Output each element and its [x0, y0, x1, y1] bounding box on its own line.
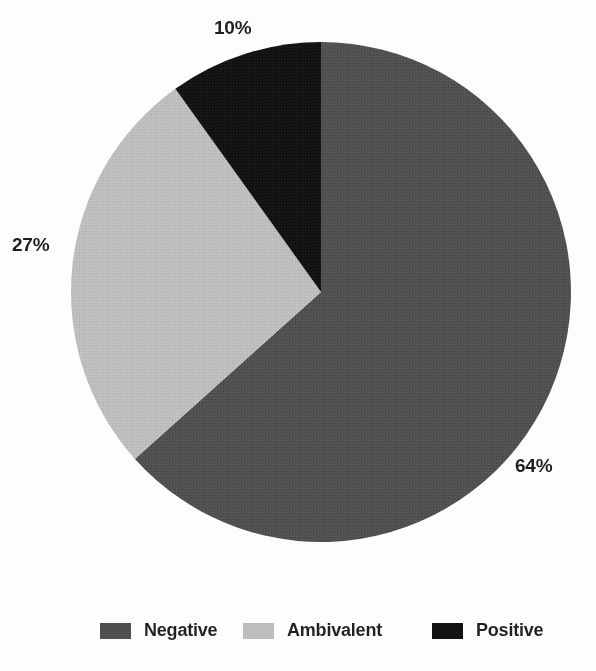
legend-item-positive[interactable]: Positive: [432, 620, 543, 641]
legend-swatch-negative: [100, 623, 131, 639]
pie-label-negative: 64%: [515, 455, 552, 477]
pie-label-positive: 10%: [214, 17, 251, 39]
legend-item-negative[interactable]: Negative: [100, 620, 217, 641]
legend-swatch-positive: [432, 623, 463, 639]
pie-chart-plot-area: [71, 41, 571, 543]
legend-swatch-ambivalent: [243, 623, 274, 639]
legend-label-negative: Negative: [144, 620, 217, 641]
pie-chart-svg: [71, 41, 571, 543]
pie-chart-figure: 10% 27% 64% Negative Ambivalent Positive: [0, 0, 596, 671]
chart-legend: Negative Ambivalent Positive: [0, 612, 596, 652]
pie-label-ambivalent: 27%: [12, 234, 49, 256]
legend-label-positive: Positive: [476, 620, 543, 641]
legend-item-ambivalent[interactable]: Ambivalent: [243, 620, 382, 641]
legend-label-ambivalent: Ambivalent: [287, 620, 382, 641]
